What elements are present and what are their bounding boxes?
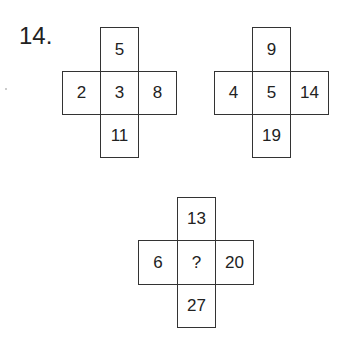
cell-right: 8 <box>138 71 177 115</box>
cell-right: 20 <box>215 240 254 285</box>
cell-left: 4 <box>214 71 253 115</box>
cell-center: 5 <box>252 71 291 115</box>
cell-center-unknown: ? <box>177 240 216 285</box>
question-number: 14. <box>19 22 52 50</box>
cell-left: 2 <box>62 71 101 115</box>
cell-bottom: 11 <box>100 114 139 158</box>
cell-left: 6 <box>138 240 178 285</box>
cell-center: 3 <box>100 71 139 115</box>
cell-top: 13 <box>177 197 216 241</box>
cell-top: 5 <box>100 27 139 72</box>
cell-top: 9 <box>252 27 291 72</box>
cell-bottom: 27 <box>177 284 216 328</box>
speck <box>5 88 7 90</box>
cell-bottom: 19 <box>252 114 291 158</box>
cell-right: 14 <box>290 71 329 115</box>
